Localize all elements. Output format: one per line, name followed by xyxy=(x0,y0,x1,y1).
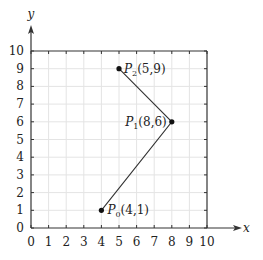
data-point xyxy=(169,119,174,124)
x-tick-label: 1 xyxy=(45,235,53,249)
y-tick-label: 10 xyxy=(9,44,24,58)
x-tick-label: 7 xyxy=(150,235,158,249)
y-tick-label: 5 xyxy=(16,133,24,147)
y-tick-label: 4 xyxy=(16,150,24,164)
data-point xyxy=(116,66,121,71)
x-tick-label: 4 xyxy=(98,235,106,249)
y-tick-label: 8 xyxy=(16,79,24,93)
x-tick-label: 3 xyxy=(80,235,88,249)
point-label-p0: P0(4,1) xyxy=(106,203,149,219)
point-label-p2: P2(5,9) xyxy=(123,62,166,78)
y-tick-label: 7 xyxy=(16,97,24,111)
y-tick-label: 6 xyxy=(16,115,24,129)
grid-lines xyxy=(31,51,207,228)
x-tick-label: 6 xyxy=(133,235,141,249)
x-tick-label: 10 xyxy=(199,235,214,249)
y-tick-label: 1 xyxy=(16,203,24,217)
y-tick-label: 0 xyxy=(16,221,24,235)
y-tick-label: 9 xyxy=(16,62,24,76)
x-tick-label: 0 xyxy=(27,235,35,249)
y-tick-label: 2 xyxy=(16,186,24,200)
x-tick-label: 5 xyxy=(115,235,123,249)
y-axis-label: y xyxy=(27,7,35,21)
x-tick-label: 9 xyxy=(186,235,194,249)
data-point xyxy=(99,208,104,213)
point-label-p1: P1(8,6) xyxy=(124,115,167,131)
x-tick-label: 8 xyxy=(168,235,176,249)
x-axis-label: x xyxy=(243,221,250,235)
chart-canvas: 012345678910012345678910xy P0(4,1)P1(8,6… xyxy=(0,0,263,260)
x-tick-label: 2 xyxy=(62,235,70,249)
y-tick-label: 3 xyxy=(16,168,24,182)
